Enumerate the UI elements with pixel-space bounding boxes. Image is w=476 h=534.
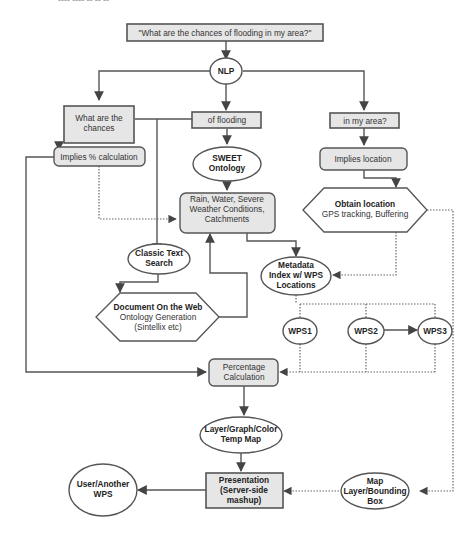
svg-text:Presentation: Presentation (219, 475, 269, 485)
svg-text:in my area?: in my area? (343, 116, 387, 126)
node-wps2: WPS2 (348, 318, 384, 344)
node-classic-text-search: Classic Text Search (128, 244, 190, 274)
svg-text:(Server-side: (Server-side (220, 485, 268, 495)
node-sweet-ontology: SWEET Ontology (193, 147, 261, 181)
node-implies-location: Implies location (320, 148, 407, 170)
svg-text:Layer/Bounding: Layer/Bounding (343, 486, 406, 496)
svg-text:chances: chances (84, 123, 115, 133)
node-document-on-the-web: Document On the Web Ontology Generation … (96, 293, 219, 341)
svg-text:GPS tracking, Buffering: GPS tracking, Buffering (322, 209, 409, 219)
svg-text:WPS3: WPS3 (423, 326, 447, 336)
svg-text:Box: Box (367, 496, 383, 506)
node-map-layer-bounding-box: Map Layer/Bounding Box (341, 473, 409, 509)
svg-text:Locations: Locations (276, 280, 316, 290)
svg-text:"What are the chances of flood: "What are the chances of flooding in my … (139, 28, 312, 38)
svg-text:Map: Map (367, 476, 384, 486)
node-rain-water-severe-weather: Rain, Water, Severe Weather Conditions, … (180, 193, 275, 233)
svg-text:Implies % calculation: Implies % calculation (60, 152, 138, 162)
header-fragment: ---- ---- -- -- -- (58, 0, 109, 5)
svg-text:Classic Text: Classic Text (135, 248, 183, 258)
node-in-my-area: in my area? (330, 113, 399, 128)
svg-text:Catchments: Catchments (205, 214, 249, 224)
node-wps3: WPS3 (418, 318, 452, 344)
svg-text:Weather Conditions,: Weather Conditions, (189, 204, 264, 214)
svg-text:Percentage: Percentage (223, 362, 266, 372)
node-presentation: Presentation (Server-side mashup) (206, 473, 283, 508)
svg-text:What are the: What are the (75, 113, 123, 123)
node-what-are-the-chances: What are the chances (64, 106, 134, 143)
svg-text:Index w/ WPS: Index w/ WPS (269, 270, 323, 280)
svg-text:WPS: WPS (94, 489, 113, 499)
flood-query-flowchart: ---- ---- -- -- -- (0, 0, 476, 534)
svg-text:Rain, Water, Severe: Rain, Water, Severe (190, 194, 264, 204)
svg-text:mashup): mashup) (227, 495, 262, 505)
svg-text:Temp Map: Temp Map (221, 434, 261, 444)
svg-text:User/Another: User/Another (77, 479, 130, 489)
svg-text:Metadata: Metadata (278, 260, 314, 270)
svg-text:Search: Search (145, 258, 173, 268)
node-metadata-index: Metadata Index w/ WPS Locations (261, 257, 331, 295)
svg-text:of flooding: of flooding (208, 115, 247, 125)
svg-text:Calculation: Calculation (223, 372, 264, 382)
node-percentage-calculation: Percentage Calculation (209, 359, 278, 386)
svg-text:NLP: NLP (218, 66, 235, 76)
node-of-flooding: of flooding (192, 112, 261, 128)
node-implies-percent-calculation: Implies % calculation (54, 147, 145, 166)
node-nlp: NLP (210, 58, 242, 84)
svg-text:WPS1: WPS1 (288, 326, 312, 336)
svg-text:SWEET: SWEET (212, 153, 242, 163)
svg-text:(Sintellix etc): (Sintellix etc) (134, 322, 182, 332)
svg-text:Layer/Graph/Color: Layer/Graph/Color (205, 424, 279, 434)
svg-text:Obtain location: Obtain location (335, 199, 395, 209)
svg-text:Ontology Generation: Ontology Generation (120, 312, 197, 322)
node-query: "What are the chances of flooding in my … (127, 24, 323, 41)
svg-text:WPS2: WPS2 (354, 326, 378, 336)
svg-text:Document On the Web: Document On the Web (114, 302, 203, 312)
node-wps1: WPS1 (283, 318, 317, 344)
svg-text:Ontology: Ontology (209, 163, 246, 173)
node-user-another-wps: User/Another WPS (69, 464, 137, 516)
node-layer-graph-color-temp-map: Layer/Graph/Color Temp Map (200, 417, 282, 453)
svg-text:Implies location: Implies location (334, 154, 392, 164)
node-obtain-location: Obtain location GPS tracking, Buffering (303, 188, 427, 232)
